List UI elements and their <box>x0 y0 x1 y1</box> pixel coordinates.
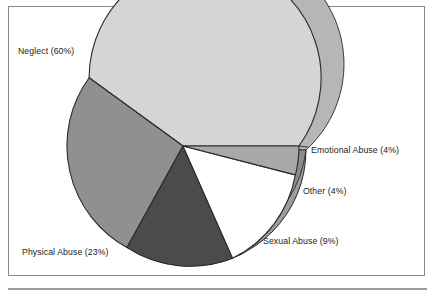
pie-label-physical-abuse: Physical Abuse (23%) <box>22 247 109 258</box>
chart-page: Neglect (60%) Physical Abuse (23%) Sexua… <box>0 0 435 294</box>
pie-label-emotional-abuse: Emotional Abuse (4%) <box>311 145 399 156</box>
pie-label-neglect: Neglect (60%) <box>18 46 74 57</box>
pie-label-sexual-abuse: Sexual Abuse (9%) <box>263 236 339 247</box>
footer-divider <box>8 288 427 290</box>
pie-label-other: Other (4%) <box>303 186 346 197</box>
